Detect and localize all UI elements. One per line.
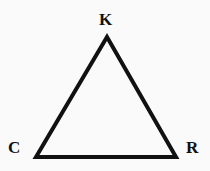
triangle-outline [36, 37, 176, 157]
vertex-label-apex: K [99, 11, 112, 28]
triangle-figure: K C R [0, 0, 210, 171]
vertex-label-bottom-right: R [186, 139, 198, 156]
vertex-label-bottom-left: C [8, 139, 20, 156]
